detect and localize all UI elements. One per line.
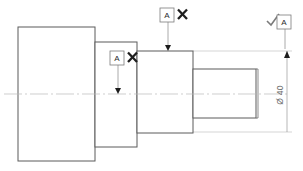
dimension-arrow-top <box>284 51 290 58</box>
callout-right-letter: A <box>281 18 287 27</box>
shaft-step-3 <box>137 51 193 133</box>
dimension-text: Ø 40 <box>275 85 285 104</box>
drawing-canvas: Ø 40 A A <box>0 0 303 171</box>
technical-drawing: Ø 40 A A <box>0 0 303 171</box>
callout-top-letter: A <box>164 11 170 20</box>
callout-top[interactable]: A <box>160 8 187 51</box>
diameter-dimension-group: Ø 40 <box>275 51 290 132</box>
callout-middle-letter: A <box>114 54 120 63</box>
callout-top-arrow <box>165 45 171 51</box>
shaft-step-4 <box>193 69 256 118</box>
callout-right[interactable]: A <box>267 14 291 49</box>
cross-icon <box>178 10 187 20</box>
